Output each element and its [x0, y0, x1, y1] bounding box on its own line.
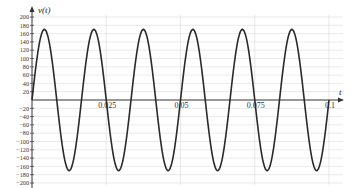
y-tick-label: 140	[20, 38, 29, 45]
sine-wave-chart: v(t) t 20018016014012010080604020−20−40−…	[0, 0, 361, 188]
axes: v(t) t	[30, 5, 345, 188]
y-tick-label: −80	[19, 129, 29, 136]
y-tick-label: −100	[16, 138, 29, 145]
y-tick-label: −140	[16, 154, 29, 161]
y-tick-label: −160	[16, 163, 29, 170]
x-tick-label: 0.1	[325, 101, 335, 110]
y-tick-label: 180	[20, 22, 29, 29]
y-tick-label: −200	[16, 179, 29, 186]
y-axis-label: v(t)	[38, 5, 51, 15]
y-tick-label: 200	[20, 13, 29, 20]
y-tick-label: −120	[16, 146, 29, 153]
x-tick-labels: 0.0250.050.0750.1	[98, 101, 335, 110]
y-tick-label: −60	[19, 121, 29, 128]
y-tick-label: 80	[23, 63, 29, 70]
y-tick-label: 60	[23, 71, 29, 78]
y-tick-label: 120	[20, 46, 29, 53]
y-tick-label: 160	[20, 30, 29, 37]
y-axis-arrow-icon	[30, 6, 35, 12]
x-axis-arrow-icon	[338, 98, 344, 103]
y-tick-label: −40	[19, 113, 29, 120]
x-tick-label: 0.05	[175, 101, 189, 110]
y-tick-label: −180	[16, 171, 29, 178]
y-tick-label: −20	[19, 105, 29, 112]
y-tick-label: 40	[23, 80, 29, 87]
y-tick-label: 100	[20, 55, 29, 62]
y-tick-label: 20	[23, 88, 29, 95]
x-axis-label: t	[339, 87, 342, 97]
